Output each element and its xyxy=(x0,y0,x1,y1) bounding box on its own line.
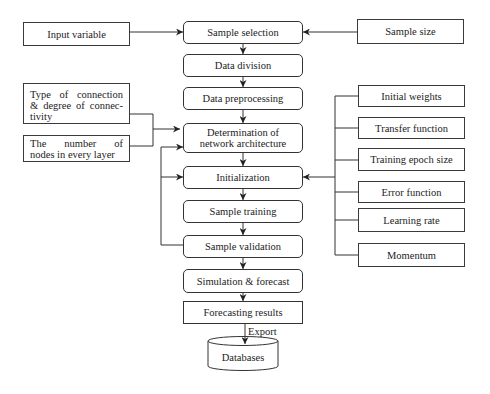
step-label: Simulation & forecast xyxy=(197,276,290,287)
step-sample-selection: Sample selection xyxy=(183,21,303,44)
step-data-preprocessing: Data preprocessing xyxy=(183,87,303,110)
input-label-line: & degree of connec- xyxy=(30,100,123,111)
step-sample-validation: Sample validation xyxy=(183,235,303,258)
param-initial-weights: Initial weights xyxy=(358,85,465,107)
input-variable-box: Input variable xyxy=(23,22,130,46)
param-label: Learning rate xyxy=(383,215,439,226)
input-label: Input variable xyxy=(47,29,106,40)
database-label: Databases xyxy=(208,352,278,363)
param-label: Momentum xyxy=(387,250,436,261)
feedback-loop-line xyxy=(161,147,183,245)
param-training-epoch-size: Training epoch size xyxy=(358,148,465,171)
step-forecasting-results: Forecasting results xyxy=(183,301,303,324)
step-label: Sample training xyxy=(210,206,277,217)
param-label: Initial weights xyxy=(381,91,441,102)
param-learning-rate: Learning rate xyxy=(358,208,465,232)
step-simulation-forecast: Simulation & forecast xyxy=(183,269,303,293)
input-label-line: nodes in every layer xyxy=(30,149,123,160)
step-label-line: Determination of xyxy=(207,127,279,138)
step-label: Sample validation xyxy=(205,241,281,252)
connector-type-of-connection xyxy=(130,114,153,146)
step-sample-training: Sample training xyxy=(183,200,303,223)
param-label: Training epoch size xyxy=(370,154,452,165)
step-initialization: Initialization xyxy=(183,166,303,189)
step-label: Data preprocessing xyxy=(203,93,284,104)
param-label: Error function xyxy=(382,187,442,198)
step-label-line: network architecture xyxy=(200,138,287,149)
input-label: Sample size xyxy=(385,26,435,37)
nodes-per-layer-box: The number of nodes in every layer xyxy=(23,135,130,162)
export-label: Export xyxy=(248,326,277,337)
param-momentum: Momentum xyxy=(358,243,465,267)
step-data-division: Data division xyxy=(183,54,303,77)
sample-size-box: Sample size xyxy=(357,19,464,44)
input-label-line: tivity xyxy=(30,111,123,122)
step-label: Data division xyxy=(215,60,271,71)
step-determination-of-network-architecture: Determination of network architecture xyxy=(183,123,303,153)
param-label: Transfer function xyxy=(375,123,448,134)
input-label-line: The number of xyxy=(30,138,123,149)
input-label-line: Type of connection xyxy=(30,89,123,100)
param-transfer-function: Transfer function xyxy=(358,117,465,139)
step-label: Forecasting results xyxy=(203,307,282,318)
param-error-function: Error function xyxy=(358,181,465,203)
connection-type-box: Type of connection & degree of connec- t… xyxy=(23,83,130,124)
step-label: Initialization xyxy=(216,172,270,183)
step-label: Sample selection xyxy=(207,27,278,38)
